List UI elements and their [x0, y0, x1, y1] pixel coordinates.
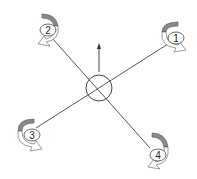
arm-1-3: [36, 44, 168, 128]
arm-2-4: [52, 38, 150, 148]
rotation-arrow-icon: [162, 22, 178, 32]
rotor-1: 1: [162, 22, 186, 52]
rotor-label: 3: [29, 130, 35, 141]
forward-arrow-icon: [97, 43, 101, 72]
quadcopter-diagram: 2 1 3 4: [0, 0, 197, 179]
rotation-arrow-icon: [152, 133, 168, 147]
rotor-3: 3: [18, 119, 42, 151]
rotor-label: 2: [45, 25, 51, 36]
rotor-4: 4: [148, 133, 168, 169]
rotor-label: 4: [155, 150, 161, 161]
rotor-label: 1: [173, 33, 179, 44]
